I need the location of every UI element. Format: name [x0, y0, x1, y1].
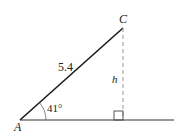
vertex-label-a: A [13, 120, 22, 134]
angle-label: 41° [47, 102, 62, 114]
height-label: h [112, 73, 118, 85]
triangle-diagram: C A 5.4 h 41° [0, 0, 184, 140]
vertex-label-c: C [119, 12, 128, 26]
right-angle-marker [114, 111, 123, 120]
side-length-label: 5.4 [58, 60, 73, 74]
side-ac [20, 28, 123, 120]
angle-arc [40, 103, 46, 120]
